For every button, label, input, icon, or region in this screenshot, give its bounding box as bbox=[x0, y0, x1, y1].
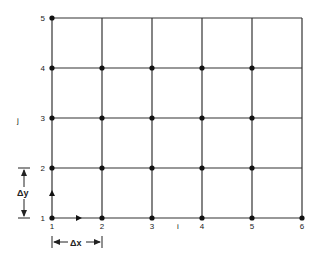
dx-label: Δx bbox=[70, 238, 81, 248]
tick-label-i-1: 1 bbox=[50, 222, 55, 231]
grid-node-6-1 bbox=[299, 215, 304, 220]
tick-label-j-2: 2 bbox=[41, 164, 46, 173]
grid-node-3-1 bbox=[149, 215, 154, 220]
grid-node-1-1 bbox=[49, 215, 54, 220]
tick-label-i-2: 2 bbox=[100, 222, 105, 231]
grid-node-4-2 bbox=[199, 165, 204, 170]
grid-node-1-2 bbox=[49, 165, 54, 170]
tick-label-j-4: 4 bbox=[41, 64, 46, 73]
grid-node-4-4 bbox=[199, 65, 204, 70]
grid-node-1-3 bbox=[49, 115, 54, 120]
grid-diagram: 12345612345 j i Δy Δx bbox=[0, 0, 321, 260]
x-axis-label: i bbox=[177, 222, 179, 231]
grid-node-5-2 bbox=[249, 165, 254, 170]
grid-node-5-1 bbox=[249, 215, 254, 220]
grid-node-5-3 bbox=[249, 115, 254, 120]
dy-label: Δy bbox=[17, 188, 28, 198]
tick-label-j-1: 1 bbox=[41, 214, 46, 223]
grid-node-5-4 bbox=[249, 65, 254, 70]
i-direction-arrow bbox=[76, 215, 82, 221]
grid-node-1-5 bbox=[49, 15, 54, 20]
grid-node-2-2 bbox=[99, 165, 104, 170]
grid-node-2-3 bbox=[99, 115, 104, 120]
grid-node-4-1 bbox=[199, 215, 204, 220]
grid-node-2-4 bbox=[99, 65, 104, 70]
grid-node-3-2 bbox=[149, 165, 154, 170]
grid-node-3-4 bbox=[149, 65, 154, 70]
grid-node-1-4 bbox=[49, 65, 54, 70]
tick-label-j-5: 5 bbox=[41, 14, 46, 23]
tick-label-i-5: 5 bbox=[250, 222, 255, 231]
tick-label-i-4: 4 bbox=[200, 222, 205, 231]
tick-label-j-3: 3 bbox=[41, 114, 46, 123]
j-direction-arrow bbox=[49, 190, 55, 196]
grid-node-3-3 bbox=[149, 115, 154, 120]
y-axis-label: j bbox=[16, 116, 19, 125]
tick-label-i-3: 3 bbox=[150, 222, 155, 231]
grid-node-4-3 bbox=[199, 115, 204, 120]
tick-label-i-6: 6 bbox=[300, 222, 305, 231]
grid-node-2-1 bbox=[99, 215, 104, 220]
